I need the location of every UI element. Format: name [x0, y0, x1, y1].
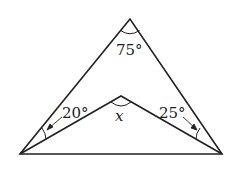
- left-angle-arc: [42, 128, 46, 139]
- left-angle-label: 20°: [62, 104, 89, 122]
- inner-angle-label: x: [115, 107, 124, 125]
- right-angle-label: 25°: [159, 104, 186, 122]
- geometry-diagram: 75° 20° 25° x: [0, 0, 238, 171]
- apex-angle-label: 75°: [116, 41, 143, 59]
- inner-angle-arc: [111, 102, 131, 106]
- apex-angle-arc: [121, 31, 140, 34]
- outer-triangle: [20, 19, 222, 154]
